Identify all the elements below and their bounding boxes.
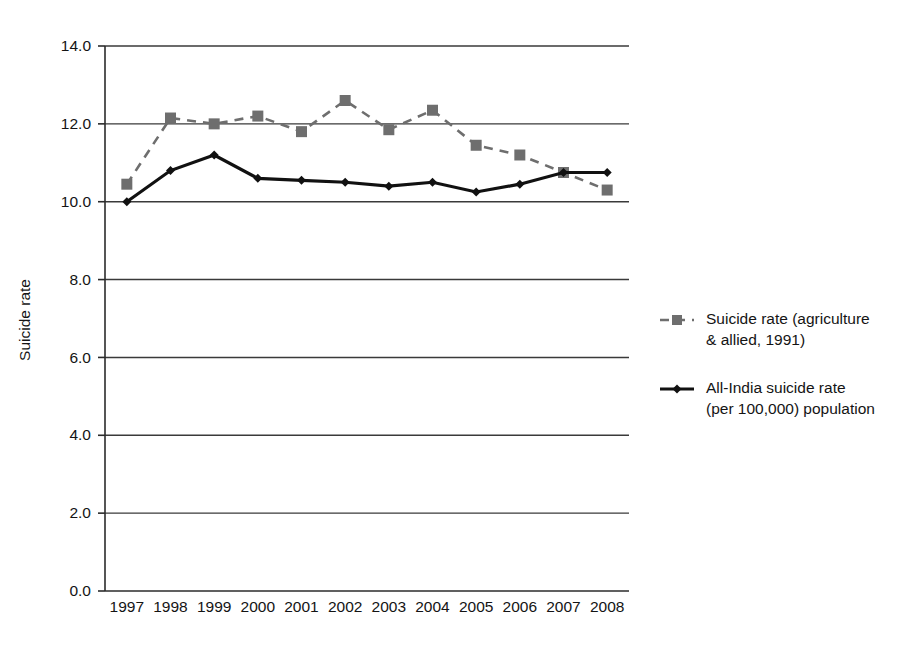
x-tick-label: 2002 [328,598,362,615]
legend-label-line2: & allied, 1991) [706,331,805,348]
data-point-agriculture [471,140,482,151]
x-tick-label: 2000 [241,598,276,615]
y-tick-marks-group [98,46,105,591]
legend-label-line2: (per 100,000) population [706,400,875,417]
data-point-agriculture [296,126,307,137]
chart-container: 0.02.04.06.08.010.012.014.0 199719981999… [0,0,899,647]
legend-label-line1: All-India suicide rate [706,379,846,396]
x-tick-label: 2005 [459,598,493,615]
y-tick-label: 2.0 [69,504,91,521]
data-point-all-india [515,180,524,189]
data-point-agriculture [427,105,438,116]
data-point-agriculture [121,179,132,190]
legend-marker-all-india [673,385,682,394]
data-point-all-india [428,178,437,187]
data-point-all-india [297,176,306,185]
y-tick-label: 14.0 [61,37,92,54]
y-tick-label: 0.0 [69,582,91,599]
x-tick-label: 2001 [284,598,318,615]
x-tick-label: 2003 [372,598,406,615]
data-point-agriculture [514,150,525,161]
x-tick-labels-group: 1997199819992000200120022003200420052006… [110,598,625,615]
data-point-all-india [603,168,612,177]
x-tick-label: 2007 [546,598,580,615]
line-chart-figure: 0.02.04.06.08.010.012.014.0 199719981999… [0,0,899,647]
x-tick-label: 2008 [590,598,624,615]
y-tick-label: 4.0 [69,426,91,443]
data-point-all-india [341,178,350,187]
data-point-agriculture [209,118,220,129]
legend-label-line1: Suicide rate (agriculture [706,310,870,327]
data-point-agriculture [165,113,176,124]
series-layer [121,95,612,206]
legend-marker-agriculture [672,315,682,325]
x-tick-label: 1999 [197,598,231,615]
data-point-agriculture [383,124,394,135]
y-tick-label: 12.0 [61,115,92,132]
data-point-all-india [472,187,481,196]
x-tick-label: 2004 [415,598,450,615]
data-point-agriculture [252,111,263,122]
y-tick-label: 8.0 [69,271,91,288]
x-tick-label: 2006 [503,598,537,615]
data-point-agriculture [602,185,613,196]
y-tick-label: 10.0 [61,193,92,210]
y-axis-title: Suicide rate [16,279,33,361]
y-tick-label: 6.0 [69,349,91,366]
x-tick-label: 1998 [153,598,187,615]
data-point-all-india [384,182,393,191]
series-line-agriculture [127,101,607,191]
y-tick-labels-group: 0.02.04.06.08.010.012.014.0 [61,37,92,599]
x-tick-label: 1997 [110,598,144,615]
data-point-agriculture [340,95,351,106]
chart-legend: Suicide rate (agriculture& allied, 1991)… [660,310,875,417]
